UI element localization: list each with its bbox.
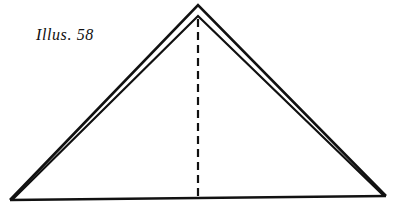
figure-caption: Illus. 58: [36, 26, 94, 44]
illustration-figure: Illus. 58: [0, 0, 395, 207]
